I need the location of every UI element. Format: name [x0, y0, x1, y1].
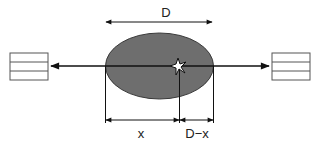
right-box [272, 53, 310, 80]
left-box [10, 53, 48, 80]
label-x: x [138, 126, 145, 141]
label-d: D [161, 5, 170, 20]
diagram-canvas: D x D−x [0, 0, 317, 143]
label-d-minus-x: D−x [185, 126, 209, 141]
